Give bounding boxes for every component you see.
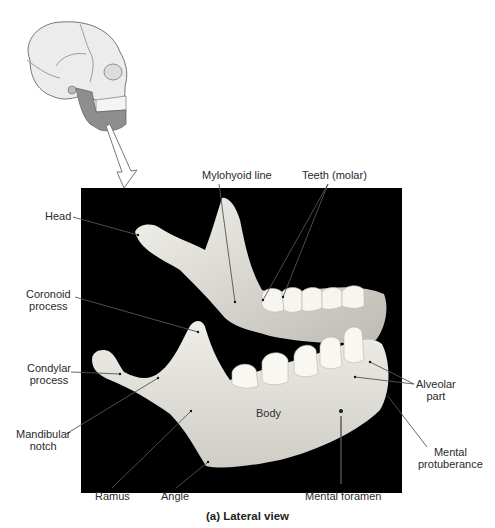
label-teeth-molar: Teeth (molar) — [302, 169, 367, 181]
label-mental-protuberance: Mental protuberance — [418, 446, 483, 470]
label-mandibular-notch: Mandibular notch — [16, 428, 70, 452]
label-coronoid-line1: Coronoid — [26, 288, 71, 300]
label-alveolar-part: Alveolar part — [416, 378, 456, 402]
leader-protuberance — [387, 395, 427, 447]
leader-teeth-1 — [263, 184, 328, 300]
label-angle: Angle — [161, 490, 189, 502]
leader-teeth-2 — [283, 184, 328, 297]
label-notch-line2: notch — [16, 440, 70, 452]
label-body: Body — [256, 407, 281, 419]
label-notch-line1: Mandibular — [16, 428, 70, 440]
mental-foramen-hole — [338, 408, 343, 413]
label-condylar-line2: process — [27, 374, 71, 386]
mandible-upper-shape — [135, 198, 386, 343]
label-ramus: Ramus — [95, 490, 130, 502]
label-alveolar-line2: part — [416, 390, 456, 402]
leader-angle — [176, 462, 208, 488]
label-mental-foramen: Mental foramen — [305, 490, 381, 502]
label-mylohyoid-line: Mylohyoid line — [202, 169, 272, 181]
label-protuberance-line2: protuberance — [418, 458, 483, 470]
leader-ramus — [112, 411, 191, 488]
leader-head — [73, 217, 138, 235]
label-coronoid-line2: process — [26, 300, 71, 312]
figure-caption: (a) Lateral view — [0, 510, 495, 522]
label-condylar-line1: Condylar — [27, 362, 71, 374]
leader-notch — [66, 378, 158, 434]
label-condylar-process: Condylar process — [27, 362, 71, 386]
label-head: Head — [45, 210, 71, 222]
label-alveolar-line1: Alveolar — [416, 378, 456, 390]
label-protuberance-line1: Mental — [418, 446, 483, 458]
label-coronoid-process: Coronoid process — [26, 288, 71, 312]
leader-coronoid — [75, 297, 198, 332]
